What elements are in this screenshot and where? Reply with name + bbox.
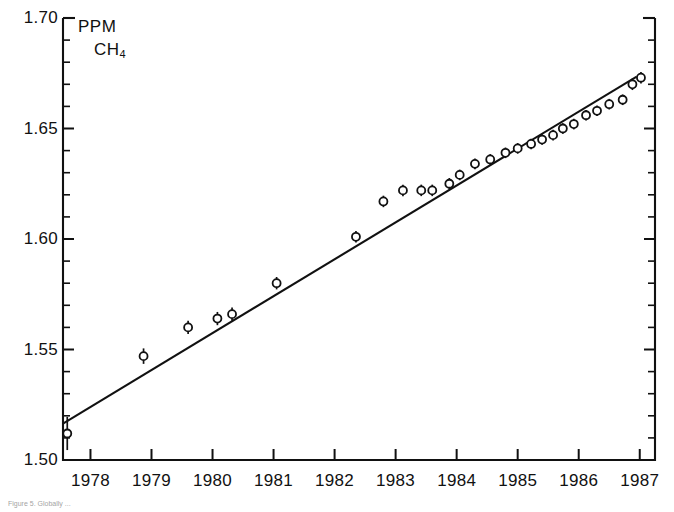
marker-open-circle	[399, 186, 407, 194]
data-point	[379, 196, 387, 207]
figure-caption: Figure 5. Globally ...	[8, 500, 71, 507]
x-tick-label: 1984	[427, 471, 487, 491]
marker-open-circle	[501, 149, 509, 157]
data-point	[619, 94, 627, 105]
data-point	[486, 154, 494, 165]
marker-open-circle	[352, 233, 360, 241]
marker-open-circle	[213, 315, 221, 323]
data-point	[273, 277, 281, 289]
data-point	[570, 119, 578, 130]
x-tick-label: 1980	[183, 471, 243, 491]
marker-open-circle	[514, 144, 522, 152]
data-point	[140, 348, 148, 363]
data-point	[471, 159, 479, 170]
marker-open-circle	[486, 155, 494, 163]
marker-open-circle	[570, 120, 578, 128]
x-tick-label: 1979	[121, 471, 181, 491]
data-point	[184, 321, 192, 334]
x-tick-label: 1986	[549, 471, 609, 491]
data-points-group	[63, 72, 645, 450]
x-tick-label: 1983	[366, 471, 426, 491]
marker-open-circle	[538, 136, 546, 144]
data-point	[456, 170, 464, 181]
y-tick-label: 1.50	[0, 450, 58, 470]
y-axis-unit-label: PPM CH4	[78, 16, 126, 62]
marker-open-circle	[140, 352, 148, 360]
marker-open-circle	[63, 429, 71, 437]
x-tick-label: 1982	[305, 471, 365, 491]
x-tick-label: 1981	[244, 471, 304, 491]
marker-open-circle	[559, 125, 567, 133]
data-point	[605, 99, 613, 110]
marker-open-circle	[628, 80, 636, 88]
marker-open-circle	[527, 140, 535, 148]
data-point	[514, 143, 522, 154]
y-tick-label: 1.65	[0, 119, 58, 139]
ch4-trend-chart	[0, 0, 674, 512]
marker-open-circle	[273, 279, 281, 287]
marker-open-circle	[637, 74, 645, 82]
data-point	[399, 185, 407, 196]
regression-line	[63, 77, 637, 424]
y-tick-label: 1.70	[0, 8, 58, 28]
data-point	[549, 130, 557, 141]
marker-open-circle	[184, 323, 192, 331]
marker-open-circle	[549, 131, 557, 139]
data-point	[417, 185, 425, 196]
marker-open-circle	[228, 310, 236, 318]
unit-ch4: CH4	[94, 39, 126, 62]
marker-open-circle	[417, 186, 425, 194]
y-tick-label: 1.60	[0, 229, 58, 249]
marker-open-circle	[445, 180, 453, 188]
x-tick-label: 1985	[488, 471, 548, 491]
marker-open-circle	[379, 197, 387, 205]
y-tick-label: 1.55	[0, 340, 58, 360]
marker-open-circle	[471, 160, 479, 168]
marker-open-circle	[582, 111, 590, 119]
data-point	[637, 72, 645, 83]
marker-open-circle	[428, 186, 436, 194]
x-tick-label: 1987	[610, 471, 670, 491]
x-tick-label: 1978	[60, 471, 120, 491]
data-point	[213, 312, 221, 325]
data-point	[501, 148, 509, 159]
data-point	[582, 110, 590, 121]
unit-ppm: PPM	[78, 16, 126, 39]
data-point	[593, 106, 601, 117]
data-point	[538, 134, 546, 145]
marker-open-circle	[456, 171, 464, 179]
marker-open-circle	[593, 107, 601, 115]
marker-open-circle	[605, 100, 613, 108]
data-point	[428, 185, 436, 196]
marker-open-circle	[619, 96, 627, 104]
data-point	[352, 231, 360, 242]
trend-line	[63, 77, 637, 424]
data-point	[527, 139, 535, 150]
data-point	[559, 123, 567, 134]
